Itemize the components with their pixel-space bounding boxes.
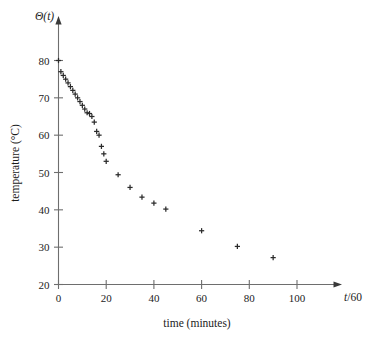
x-tick-label-100: 100 bbox=[289, 292, 306, 304]
data-point bbox=[116, 172, 121, 177]
cooling-curve-figure: 20304050607080 020406080100 Θ(t) t/60 ti… bbox=[0, 0, 373, 339]
x-axis-arrowhead bbox=[334, 281, 343, 287]
y-tick-label-80: 80 bbox=[39, 55, 51, 67]
data-point bbox=[271, 255, 276, 260]
x-tick-label-0: 0 bbox=[56, 292, 62, 304]
x-tick-label-40: 40 bbox=[148, 292, 160, 304]
x-tick-label-60: 60 bbox=[196, 292, 208, 304]
data-point bbox=[101, 151, 106, 156]
data-point bbox=[92, 120, 97, 125]
data-point bbox=[139, 195, 144, 200]
y-tick-label-50: 50 bbox=[39, 167, 51, 179]
theta-argument: (t) bbox=[43, 10, 54, 23]
data-point bbox=[56, 58, 61, 63]
data-point bbox=[99, 144, 104, 149]
data-point bbox=[151, 201, 156, 206]
x-tick-label-80: 80 bbox=[244, 292, 256, 304]
scatter-plot-canvas: 20304050607080 020406080100 Θ(t) t/60 ti… bbox=[0, 0, 373, 339]
data-point bbox=[199, 228, 204, 233]
y-tick-label-60: 60 bbox=[39, 129, 51, 141]
axes-group bbox=[55, 16, 342, 288]
data-point bbox=[104, 159, 109, 164]
x-axis-ticks: 020406080100 bbox=[56, 280, 306, 304]
y-tick-label-30: 30 bbox=[39, 241, 51, 253]
divide-sixty: /60 bbox=[347, 291, 362, 303]
y-axis-title: temperature (°C) bbox=[9, 124, 22, 202]
data-point bbox=[127, 185, 132, 190]
data-point bbox=[163, 206, 168, 211]
data-point bbox=[235, 244, 240, 249]
y-tick-label-70: 70 bbox=[39, 92, 51, 104]
y-axis-variable-label: Θ(t) bbox=[35, 10, 54, 23]
y-tick-label-20: 20 bbox=[39, 279, 51, 291]
x-axis-variable-label: t/60 bbox=[344, 291, 362, 303]
x-axis-title: time (minutes) bbox=[163, 317, 231, 330]
y-axis-ticks: 20304050607080 bbox=[39, 55, 64, 291]
y-tick-label-40: 40 bbox=[39, 204, 51, 216]
y-axis-arrowhead bbox=[55, 16, 61, 25]
x-tick-label-20: 20 bbox=[101, 292, 113, 304]
data-point-group bbox=[56, 58, 276, 260]
